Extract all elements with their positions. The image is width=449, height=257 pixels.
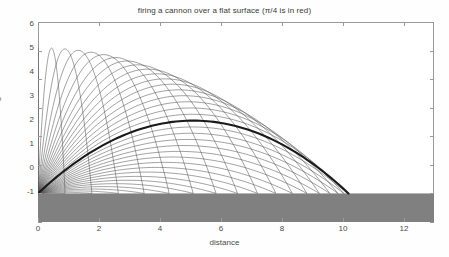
x-axis-label: distance	[0, 238, 449, 247]
trajectory-plot	[38, 22, 434, 222]
plot-axes	[38, 22, 434, 222]
y-tick-mark	[430, 22, 434, 23]
y-tick-mark	[38, 222, 42, 223]
ground-surface	[38, 193, 434, 222]
trajectory-curve	[38, 172, 258, 193]
x-tick-mark	[221, 22, 222, 26]
x-tick-10: 10	[331, 224, 355, 233]
x-tick-6: 6	[209, 224, 233, 233]
y-tick-mark	[430, 51, 434, 52]
y-tick-mark	[430, 136, 434, 137]
trajectory-curve	[38, 96, 330, 194]
plot-title: firing a cannon over a flat surface (π/4…	[0, 6, 449, 15]
y-tick-mark	[430, 108, 434, 109]
y-axis-label: height	[0, 90, 1, 112]
x-tick-mark	[343, 22, 344, 26]
y-tick-mark	[430, 222, 434, 223]
y-tick-1: 1	[16, 139, 34, 148]
x-tick-0: 0	[26, 224, 50, 233]
x-tick-mark	[160, 218, 161, 222]
x-tick-mark	[160, 22, 161, 26]
y-tick-mark	[38, 51, 42, 52]
x-tick-mark	[282, 22, 283, 26]
y-tick-2: 2	[16, 115, 34, 124]
trajectory-curve	[38, 74, 276, 194]
x-tick-mark	[282, 218, 283, 222]
x-tick-mark	[404, 218, 405, 222]
y-tick-mark	[38, 79, 42, 80]
y-tick-0: 0	[16, 163, 34, 172]
y-tick-mark	[38, 165, 42, 166]
y-tick-mark	[430, 193, 434, 194]
x-tick-8: 8	[270, 224, 294, 233]
trajectory-curve	[38, 146, 330, 194]
figure-canvas: firing a cannon over a flat surface (π/4…	[0, 0, 449, 257]
y-tick-4: 4	[16, 67, 34, 76]
x-tick-mark	[99, 22, 100, 26]
y-tick-mark	[430, 165, 434, 166]
x-tick-12: 12	[392, 224, 416, 233]
y-tick-neg1: -1	[13, 187, 34, 196]
y-tick-mark	[430, 79, 434, 80]
y-tick-3: 3	[16, 91, 34, 100]
y-tick-6: 6	[16, 19, 34, 28]
x-tick-mark	[99, 218, 100, 222]
y-tick-mark	[38, 108, 42, 109]
y-tick-mark	[38, 136, 42, 137]
y-tick-mark	[38, 22, 42, 23]
x-tick-4: 4	[148, 224, 172, 233]
trajectory-curve	[38, 151, 319, 193]
trajectory-curve-pi-over-4	[38, 121, 349, 194]
x-tick-2: 2	[87, 224, 111, 233]
x-tick-mark	[404, 22, 405, 26]
x-tick-mark	[221, 218, 222, 222]
x-tick-mark	[343, 218, 344, 222]
y-tick-5: 5	[16, 43, 34, 52]
y-tick-mark	[38, 193, 42, 194]
